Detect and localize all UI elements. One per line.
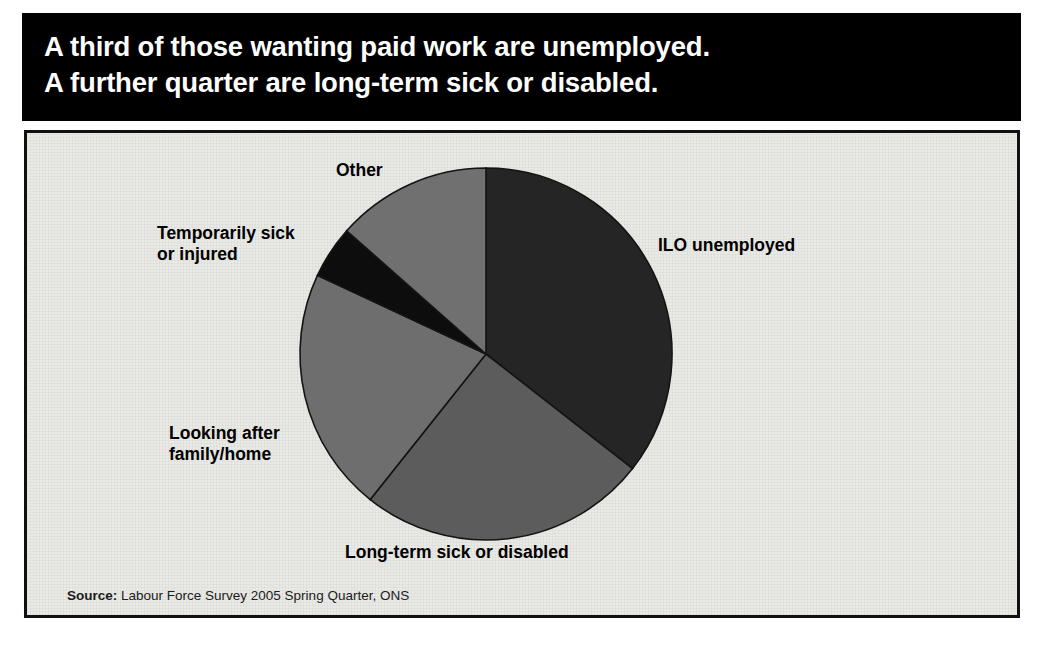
chart-figure: A third of those wanting paid work are u… [0,0,1043,647]
chart-panel: Other Temporarily sick or injured Lookin… [24,130,1020,618]
pie-slice-group [300,168,672,540]
source-label: Source: [67,588,117,603]
source-text: Labour Force Survey 2005 Spring Quarter,… [117,588,409,603]
title-line-2: A further quarter are long-term sick or … [44,65,1021,101]
pie-label-temporarily-sick: Temporarily sick or injured [157,223,295,265]
pie-label-other: Other [336,160,383,181]
pie-label-looking-after-family-home: Looking after family/home [169,423,280,465]
pie-label-ilo-unemployed: ILO unemployed [658,235,795,256]
title-line-1: A third of those wanting paid work are u… [44,29,1021,65]
source-line: Source: Labour Force Survey 2005 Spring … [67,588,409,603]
pie-label-long-term-sick-or-disabled: Long-term sick or disabled [345,542,569,563]
title-banner: A third of those wanting paid work are u… [22,13,1021,121]
